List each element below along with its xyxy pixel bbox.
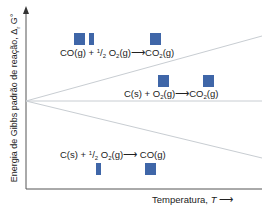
gas-mole-square-half-o2: [96, 163, 101, 175]
gas-mole-square-co2: [203, 75, 214, 87]
x-axis-arrow-icon: ⟶: [219, 194, 233, 205]
gas-mole-square-o2: [158, 75, 169, 87]
gas-mole-square-co2: [150, 33, 161, 45]
gas-mole-square-half-o2: [89, 33, 94, 45]
y-axis-arrow-icon: [23, 6, 29, 14]
reaction-label-co-to-co2: CO(g) + 1/2 O2(g)⟶CO2(g): [60, 48, 174, 59]
arrow-icon: ⟶: [175, 88, 189, 99]
arrow-icon: ⟶: [123, 149, 137, 160]
diagram-canvas: [0, 0, 270, 215]
reaction-label-c-to-co2: C(s) + O2(g)⟶CO2(g): [124, 89, 218, 100]
x-axis-label: Temperatura, T ⟶: [152, 194, 233, 205]
reaction-label-c-to-co: C(s) + 1/2 O2(g)⟶ CO(g): [60, 150, 166, 161]
gas-mole-square-co: [145, 163, 156, 175]
y-axis-label: Energia de Gibbs padrão de reação, Δr G°: [9, 3, 21, 193]
ellingham-diagram: Energia de Gibbs padrão de reação, Δr G°…: [0, 0, 270, 215]
arrow-icon: ⟶: [131, 47, 145, 58]
gas-mole-square-co: [74, 33, 85, 45]
